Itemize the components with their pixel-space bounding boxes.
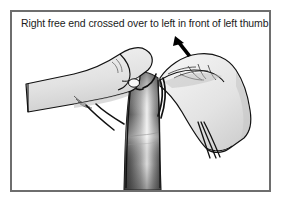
right-hand xyxy=(160,54,251,158)
illustration-frame: Right free end crossed over to left in f… xyxy=(10,10,271,192)
direction-arrow xyxy=(173,36,191,57)
figure-root: Right free end crossed over to left in f… xyxy=(0,0,281,203)
knot-tying-illustration xyxy=(12,12,269,190)
